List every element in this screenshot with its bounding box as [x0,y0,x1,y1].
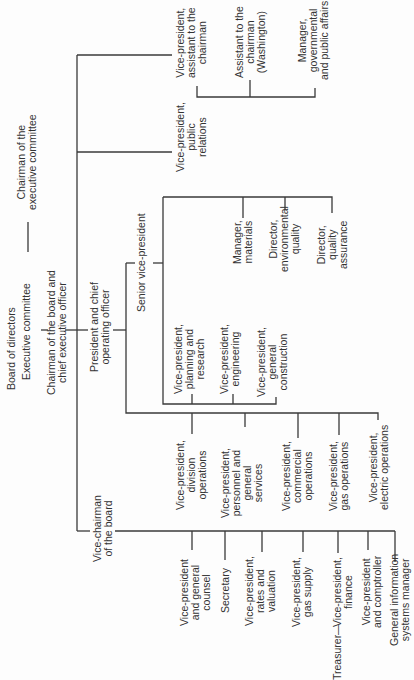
node-vp-division-operations: Vice-president, division operations [175,440,208,510]
node-vp-general-counsel: Vice-president and general counsel [179,559,212,626]
org-chart: Board of directors Executive committee C… [0,0,414,680]
node-vp-electric-operations: Vice-president, electric operations [368,425,390,510]
node-vp-commercial-operations: Vice-president, commercial operations [281,441,314,511]
node-senior-vp: Senior vice-president [136,213,147,312]
connector [163,197,332,213]
node-vice-chairman: Vice-chairman of the board [92,495,114,562]
node-chairman-executive-committee: Chairman of the executive committee [16,114,38,210]
node-chairman-ceo: Chairman of the board and chief executiv… [46,270,68,395]
node-vp-assistant-chairman: Vice-president, assistant to the chairma… [175,7,208,78]
node-president-coo: President and chief operating officer [89,282,111,372]
node-vp-engineering: Vice-president, engineering [219,324,241,394]
node-vp-gas-operations: Vice-president, gas operations [328,441,350,511]
node-vp-gas-supply: Vice-president, gas supply [291,557,313,627]
node-director-quality-assurance: Director, quality assurance [316,221,349,269]
node-treasurer: Treasurer— [332,624,343,680]
node-executive-committee: Executive committee [21,283,32,380]
connector [126,263,378,420]
node-manager-governmental: Manager, governmental and public affairs [297,1,330,80]
node-vp-comptroller: Vice-president and comptroller [361,556,383,628]
node-board: Board of directors [6,307,17,390]
node-vp-personnel: Vice-president, personnel and general se… [220,448,264,518]
node-secretary: Secretary [220,568,231,613]
node-vp-finance: Vice-president, finance [332,557,354,627]
node-director-environmental: Director, environmental quality [268,206,301,272]
node-assistant-washington: Assistant to the chairman (Washington) [234,6,267,78]
node-manager-materials: Manager, materials [232,220,254,264]
node-vp-rates-valuation: Vice-president, rates and valuation [244,556,277,626]
connector [197,86,315,97]
node-gis-manager: General information systems manager [389,554,411,646]
node-vp-public-relations: Vice-president, public relations [175,102,208,172]
node-vp-general-construction: Vice-president, general construction [256,327,289,397]
node-vp-planning-research: Vice-president, planning and research [173,324,206,394]
